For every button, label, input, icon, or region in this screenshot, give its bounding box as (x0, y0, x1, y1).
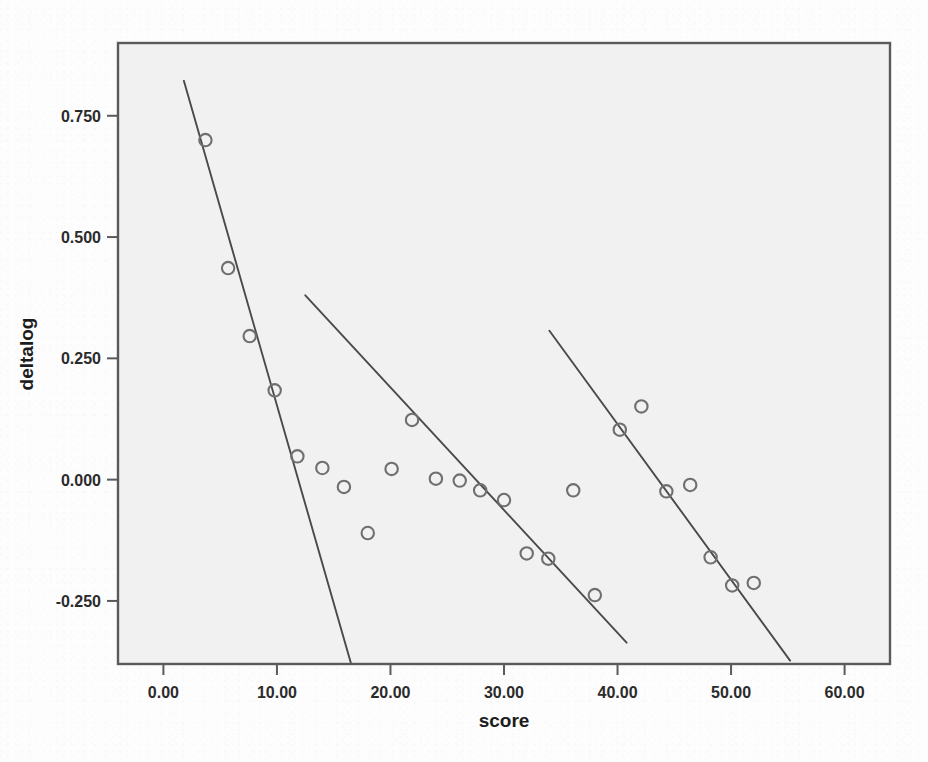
y-tick-label: -0.250 (56, 593, 101, 610)
y-axis-ticks (107, 116, 118, 601)
x-tick-label: 60.00 (825, 684, 865, 701)
y-tick-label: 0.250 (61, 350, 101, 367)
y-tick-label: 0.000 (61, 472, 101, 489)
y-tick-label: 0.500 (61, 229, 101, 246)
x-tick-label: 30.00 (484, 684, 524, 701)
x-axis-title: score (479, 710, 530, 731)
y-axis-tick-labels: 0.7500.5000.2500.000-0.250 (56, 108, 101, 610)
x-axis-ticks (163, 664, 844, 675)
scatter-plot-figure: 0.0010.0020.0030.0040.0050.0060.00 0.750… (0, 0, 928, 762)
y-axis-title: deltalog (16, 318, 37, 391)
x-tick-label: 50.00 (711, 684, 751, 701)
y-tick-label: 0.750 (61, 108, 101, 125)
x-axis-tick-labels: 0.0010.0020.0030.0040.0050.0060.00 (148, 684, 865, 701)
plot-area-background (118, 43, 890, 664)
x-tick-label: 10.00 (257, 684, 297, 701)
x-tick-label: 20.00 (370, 684, 410, 701)
x-tick-label: 0.00 (148, 684, 179, 701)
x-tick-label: 40.00 (598, 684, 638, 701)
plot-canvas: 0.0010.0020.0030.0040.0050.0060.00 0.750… (0, 0, 928, 762)
